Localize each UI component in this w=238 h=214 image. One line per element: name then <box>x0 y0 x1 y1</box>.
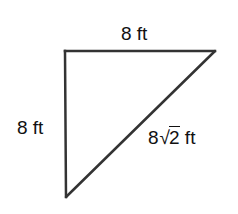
right-triangle-diagram <box>0 0 238 214</box>
hypotenuse-label: 8√2 ft <box>148 126 195 147</box>
left-side-label: 8 ft <box>17 118 43 137</box>
left-side <box>65 51 66 197</box>
square-root: √2 <box>159 126 180 147</box>
radicand: 2 <box>169 126 180 147</box>
hypotenuse-coefficient: 8 <box>148 127 159 148</box>
top-side-label: 8 ft <box>121 24 147 43</box>
hypotenuse <box>66 51 215 197</box>
hypotenuse-unit: ft <box>180 127 196 148</box>
